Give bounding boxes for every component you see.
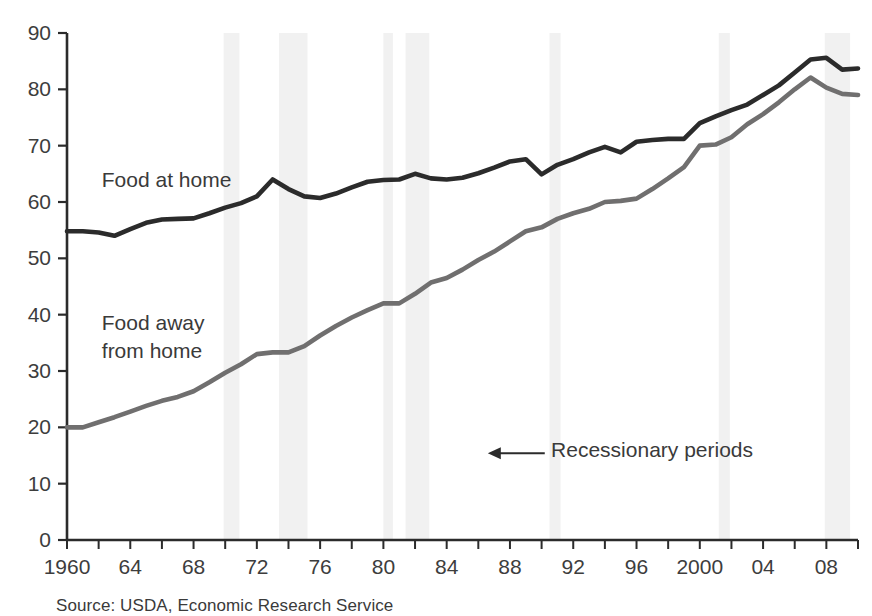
recession-band (224, 33, 240, 540)
x-axis-ticks-group (67, 540, 858, 549)
x-axis-tick-label: 92 (562, 555, 585, 578)
y-axis-tick-label: 60 (28, 190, 51, 213)
recession-band (383, 33, 392, 540)
x-axis-tick-labels-group: 196064687276808488929620000408 (44, 555, 838, 578)
x-axis-tick-label: 72 (245, 555, 268, 578)
y-axis-tick-labels-group: 0102030405060708090 (28, 21, 51, 551)
x-axis-tick-label: 88 (498, 555, 521, 578)
x-axis-tick-label: 1960 (44, 555, 91, 578)
y-axis-tick-label: 90 (28, 21, 51, 44)
annotation-arrow-head (488, 447, 501, 459)
recession-band (550, 33, 561, 540)
x-axis-tick-label: 68 (182, 555, 205, 578)
series-label-food-at-home: Food at home (102, 168, 232, 191)
x-axis-tick-label: 80 (372, 555, 395, 578)
x-axis-tick-label: 2000 (676, 555, 723, 578)
series-line (67, 58, 858, 236)
y-axis-tick-label: 80 (28, 77, 51, 100)
x-axis-tick-label: 64 (119, 555, 143, 578)
recession-band (825, 33, 850, 540)
x-axis-tick-label: 84 (435, 555, 459, 578)
series-line (67, 78, 858, 428)
y-axis-tick-label: 40 (28, 303, 51, 326)
annotation-recessionary-periods-label: Recessionary periods (551, 438, 753, 461)
y-axis-tick-label: 70 (28, 134, 51, 157)
x-axis-tick-label: 04 (751, 555, 775, 578)
x-axis-tick-label: 76 (308, 555, 331, 578)
series-label-line-2: from home (102, 339, 202, 362)
y-axis-tick-label: 20 (28, 415, 51, 438)
x-axis-tick-label: 08 (815, 555, 838, 578)
series-label-line-1: Food away (102, 311, 205, 334)
data-series-group (67, 58, 858, 428)
y-axis-tick-label: 10 (28, 472, 51, 495)
y-axis-tick-label: 50 (28, 246, 51, 269)
recession-band (279, 33, 307, 540)
x-axis-tick-label: 96 (625, 555, 648, 578)
y-axis-tick-label: 30 (28, 359, 51, 382)
series-label-food-away-from-home: Food awayfrom home (102, 311, 205, 362)
recession-bands-group (224, 33, 850, 540)
y-axis-ticks-group (58, 33, 67, 540)
y-axis-tick-label: 0 (39, 528, 51, 551)
series-labels-group: Food at homeFood awayfrom home (102, 168, 232, 362)
source-note: Source: USDA, Economic Research Service (56, 596, 393, 616)
annotations-group: Recessionary periods (488, 438, 753, 461)
